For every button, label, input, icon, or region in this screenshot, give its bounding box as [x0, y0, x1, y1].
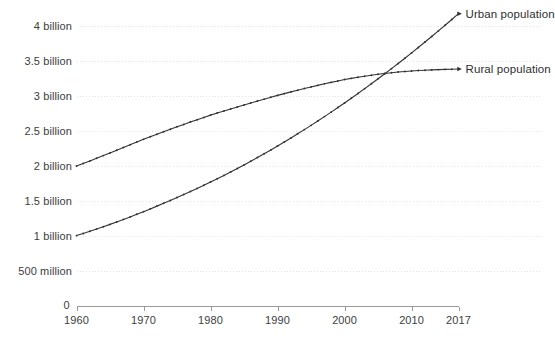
- x-axis-ticks: [78, 307, 460, 311]
- y-tick-label: 2.5 billion: [24, 126, 72, 137]
- series-lines: [77, 14, 459, 236]
- x-tick-label: 2010: [392, 315, 432, 326]
- y-tick-label: 2 billion: [34, 161, 72, 172]
- series-leader-arrows: [457, 11, 462, 71]
- x-tick-label: 1980: [191, 315, 231, 326]
- x-tick-label: 1970: [124, 315, 164, 326]
- x-tick-label: 1990: [258, 315, 298, 326]
- y-tick-label: 500 million: [18, 266, 72, 277]
- x-tick-label: 1960: [57, 315, 97, 326]
- y-tick-label: 3.5 billion: [24, 56, 72, 67]
- y-tick-label: 1 billion: [34, 231, 72, 242]
- x-tick-label: 2000: [325, 315, 365, 326]
- y-axis-zero-label: 0: [64, 300, 70, 311]
- series-point-markers: [76, 13, 460, 237]
- x-tick-label: 2017: [439, 315, 479, 326]
- series-label-urban: Urban population: [466, 8, 555, 20]
- y-tick-label: 1.5 billion: [24, 196, 72, 207]
- y-tick-label: 3 billion: [34, 91, 72, 102]
- series-label-rural: Rural population: [466, 63, 551, 75]
- y-tick-label: 4 billion: [34, 21, 72, 32]
